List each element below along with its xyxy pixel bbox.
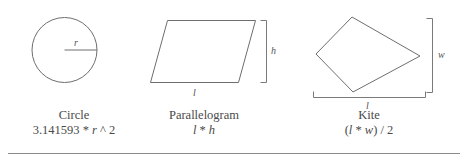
circle-name: Circle: [0, 108, 148, 123]
parallelogram-height-label: h: [271, 46, 276, 56]
parallelogram-shape: [151, 21, 256, 83]
geometry-figure: r h l w l Circle 3.141593 * r ^ 2 Parall…: [0, 0, 468, 162]
circle-formula-before: 3.141593 *: [33, 123, 92, 137]
parallelogram-formula: l * h: [134, 123, 274, 138]
kite-formula-middle: *: [352, 123, 365, 137]
kite-formula: (l * w) / 2: [299, 123, 439, 138]
parallelogram-name: Parallelogram: [134, 108, 274, 123]
circle-formula-after: ^ 2: [97, 123, 115, 137]
parallelogram-height-bracket: [261, 21, 267, 83]
kite-shape: [316, 17, 420, 92]
parallelogram-formula-variable2: h: [209, 123, 215, 137]
kite-formula-variable2: w: [365, 123, 373, 137]
caption-kite: Kite (l * w) / 2: [299, 108, 439, 139]
parallelogram-length-label: l: [193, 88, 196, 98]
circle-radius-label: r: [74, 38, 78, 48]
circle-formula: 3.141593 * r ^ 2: [0, 123, 148, 138]
kite-name: Kite: [299, 108, 439, 123]
kite-width-label: w: [438, 50, 445, 60]
caption-circle: Circle 3.141593 * r ^ 2: [0, 108, 148, 139]
kite-length-bracket: [314, 92, 426, 98]
parallelogram-formula-middle: *: [196, 123, 209, 137]
caption-parallelogram: Parallelogram l * h: [134, 108, 274, 139]
kite-formula-after: ) / 2: [373, 123, 393, 137]
kite-width-bracket: [427, 19, 433, 93]
